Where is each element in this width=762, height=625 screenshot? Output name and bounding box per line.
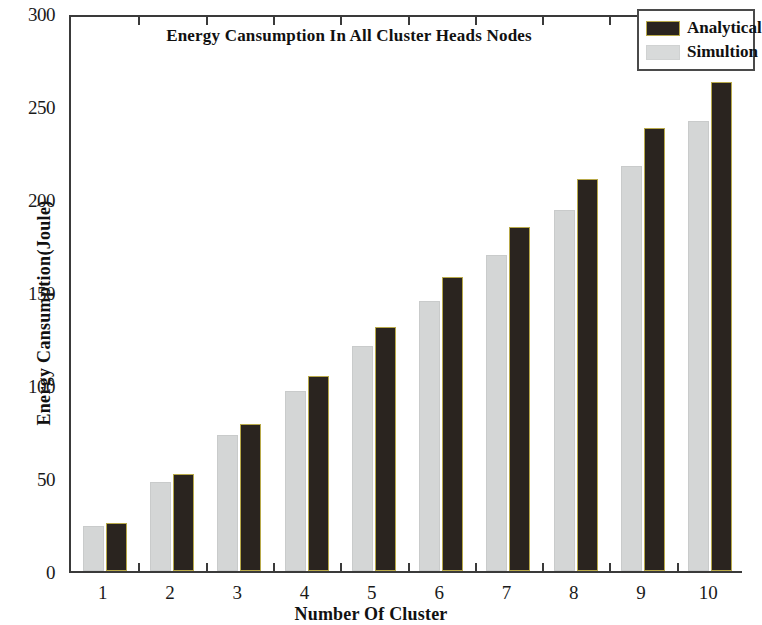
x-axis-tick-mark-top	[138, 17, 140, 25]
bar-simultion-4	[285, 391, 306, 571]
x-axis-tick-label: 10	[699, 582, 718, 604]
bar-analytical-2	[173, 474, 194, 571]
x-axis-tick-mark	[475, 563, 477, 571]
x-axis-tick-label: 5	[367, 582, 377, 604]
x-axis-tick-mark	[273, 563, 275, 571]
legend-swatch-analytical	[646, 21, 680, 36]
x-axis-tick-label: 8	[569, 582, 579, 604]
x-axis-tick-mark-top	[206, 17, 208, 25]
x-axis-title: Number Of Cluster	[0, 604, 742, 625]
x-axis-tick-label: 7	[502, 582, 512, 604]
bar-simultion-8	[554, 210, 575, 571]
x-axis-tick-mark	[542, 563, 544, 571]
x-axis-tick-mark-top	[475, 17, 477, 25]
bar-analytical-8	[577, 179, 598, 571]
y-axis-tick-label: 150	[28, 283, 55, 305]
legend-item-simultion: Simultion	[646, 40, 753, 64]
bar-simultion-10	[688, 121, 709, 571]
x-axis-tick-label: 2	[165, 582, 175, 604]
bar-analytical-9	[644, 128, 665, 571]
x-axis-tick-label: 4	[300, 582, 310, 604]
bar-simultion-5	[352, 346, 373, 571]
x-axis-tick-label: 9	[636, 582, 646, 604]
bar-analytical-4	[308, 376, 329, 571]
x-axis-tick-label: 1	[98, 582, 108, 604]
y-axis-tick-label: 300	[28, 4, 55, 26]
legend-swatch-simultion	[646, 45, 680, 60]
y-axis-tick-label: 200	[28, 190, 55, 212]
legend-label-analytical: Analytical	[687, 18, 762, 38]
x-axis-tick-mark-top	[273, 17, 275, 25]
chart-title: Energy Cansumption In All Cluster Heads …	[69, 26, 629, 46]
bar-analytical-7	[509, 227, 530, 571]
x-axis-tick-mark	[138, 563, 140, 571]
x-axis-tick-mark-top	[340, 17, 342, 25]
bar-analytical-6	[442, 277, 463, 571]
y-axis-tick-label: 250	[28, 97, 55, 119]
plot-area	[69, 15, 742, 573]
bar-simultion-6	[419, 301, 440, 571]
chart-legend: Analytical Simultion	[637, 9, 755, 71]
legend-item-analytical: Analytical	[646, 16, 753, 40]
x-axis-tick-mark	[340, 563, 342, 571]
y-axis: 050100150200250300	[0, 0, 69, 625]
bar-analytical-3	[240, 424, 261, 571]
x-axis-tick-label: 6	[434, 582, 444, 604]
x-axis-tick-mark	[609, 563, 611, 571]
y-axis-tick-label: 100	[28, 376, 55, 398]
bar-analytical-10	[711, 82, 732, 571]
bar-simultion-3	[217, 435, 238, 571]
legend-label-simultion: Simultion	[687, 42, 758, 62]
bar-simultion-2	[150, 482, 171, 571]
bar-simultion-7	[486, 255, 507, 571]
x-axis-tick-mark-top	[542, 17, 544, 25]
bar-simultion-1	[83, 526, 104, 571]
bar-simultion-9	[621, 166, 642, 571]
bar-analytical-5	[375, 327, 396, 571]
x-axis-tick-mark	[677, 563, 679, 571]
x-axis-tick-mark-top	[408, 17, 410, 25]
y-axis-tick-label: 50	[37, 469, 55, 491]
y-axis-tick-label: 0	[46, 562, 55, 584]
x-axis-tick-mark	[408, 563, 410, 571]
bars-container	[71, 17, 742, 571]
bar-analytical-1	[106, 523, 127, 571]
x-axis-tick-label: 3	[233, 582, 243, 604]
x-axis-tick-mark-top	[609, 17, 611, 25]
x-axis-tick-mark	[206, 563, 208, 571]
